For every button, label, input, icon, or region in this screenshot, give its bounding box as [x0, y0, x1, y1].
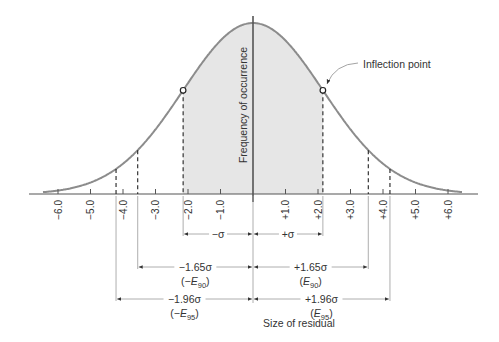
x-tick-label: +1.0 [280, 200, 291, 220]
x-tick-label: +6.0 [443, 200, 454, 220]
x-tick-label: +5.0 [410, 200, 421, 220]
x-tick-label: +4.0 [378, 200, 389, 220]
x-tick-label: −5.0 [85, 200, 96, 220]
x-tick-label: −6.0 [53, 200, 64, 220]
x-tick-label: −1.0 [215, 200, 226, 220]
inflection-point-marker [180, 87, 186, 93]
range-label-left: −1.96σ [168, 293, 202, 305]
x-tick-label: +2.0 [313, 200, 324, 220]
inflection-callout: Inflection point [327, 58, 431, 84]
axes [29, 16, 478, 202]
x-tick-label: −4.0 [118, 200, 129, 220]
range-label-right: +1.96σ [305, 293, 339, 305]
range-label-left: −σ [212, 228, 225, 240]
x-tick-label: +3.0 [345, 200, 356, 220]
inflection-point-marker [320, 87, 326, 93]
inflection-leader-line [327, 63, 358, 84]
x-tick-label: −3.0 [150, 200, 161, 220]
y-axis-label: Frequency of occurrence [237, 47, 249, 163]
range-label-right: +1.65σ [294, 261, 328, 273]
inflection-point-label: Inflection point [363, 58, 431, 70]
range-label-right: +σ [282, 228, 295, 240]
normal-distribution-diagram: −6.0−5.0−4.0−3.0−2.0−1.0+1.0+2.0+3.0+4.0… [0, 0, 499, 342]
chart-canvas: −6.0−5.0−4.0−3.0−2.0−1.0+1.0+2.0+3.0+4.0… [0, 0, 499, 342]
range-sublabel-left: (−E95) [170, 307, 199, 322]
x-axis-label: Size of residual [263, 317, 335, 329]
range-label-left: −1.65σ [179, 261, 213, 273]
range-sublabel-left: (−E90) [181, 275, 210, 290]
x-tick-label: −2.0 [183, 200, 194, 220]
range-sublabel-right: (E90) [299, 275, 321, 290]
